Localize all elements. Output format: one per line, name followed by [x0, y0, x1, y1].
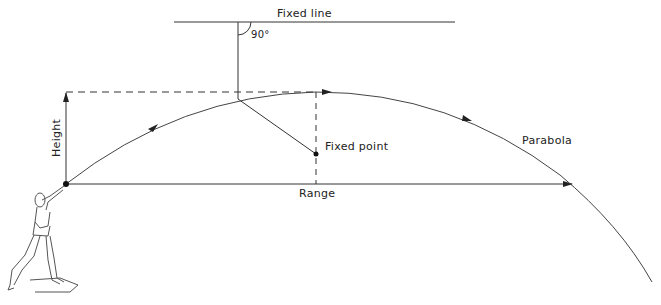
diagram-canvas: Fixed line 90° Fixed point Parabola Rang… [0, 0, 661, 305]
angle-label: 90° [251, 29, 270, 40]
range-label: Range [299, 187, 335, 200]
parabola-label: Parabola [522, 134, 572, 147]
athlete-figure-icon [8, 186, 78, 292]
height-label: Height [50, 119, 63, 157]
fixed-line-label: Fixed line [277, 7, 332, 20]
parabola-curve [66, 92, 652, 282]
fixed-point-dot [314, 152, 319, 157]
fixed-point-label: Fixed point [325, 140, 388, 153]
angle-arc [238, 22, 251, 35]
curve-arrow-icon [462, 115, 472, 121]
curve-arrow-icon [322, 89, 332, 95]
radius-line [238, 99, 316, 154]
